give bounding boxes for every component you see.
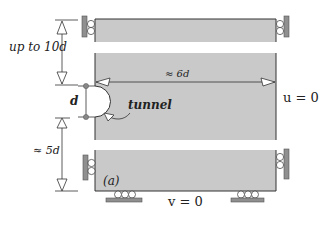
label-d: d [70,95,78,107]
domain-bottom-block [95,150,276,191]
label-tunnel: tunnel [128,99,172,111]
domain-top-strip [95,19,276,42]
tunnel-model-diagram [0,0,327,246]
roller-support-base-left [106,191,142,202]
label-width-6d: ≈ 6d [165,69,189,79]
roller-support-base-right [231,191,264,202]
roller-support-bottom-left-side [83,155,95,180]
roller-support-bottom-right-side [276,149,289,179]
label-5d: ≈ 5d [33,145,60,156]
roller-support-top-left [82,16,95,37]
label-u-equals-0: u = 0 [283,91,319,104]
domain-middle-block [95,53,276,140]
dimension-d [78,83,95,119]
label-v-equals-0: v = 0 [168,195,203,208]
panel-label: (a) [103,175,120,187]
roller-support-top-right [276,16,289,37]
label-up-to-10d: up to 10d [9,41,67,53]
